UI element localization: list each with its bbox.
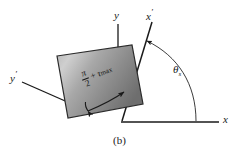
axis-label-x-text: x (223, 113, 228, 125)
angle-label-theta-s: θs (173, 64, 181, 78)
stress-element-square (57, 45, 143, 118)
figure-caption: (b) (0, 134, 239, 146)
axis-label-y-prime: y′ (10, 70, 17, 84)
prime-mark-x: ′ (151, 7, 153, 17)
axis-label-x: x (223, 114, 228, 125)
axis-label-y: y (114, 10, 119, 21)
axis-label-x-prime: x′ (146, 8, 153, 22)
prime-mark-y: ′ (15, 69, 17, 79)
theta-arc (147, 41, 196, 121)
figure-container: y x′ y′ x θs π 2 + τmax (b) (0, 0, 239, 160)
axis-label-y-text: y (114, 9, 119, 21)
theta-subscript: s (178, 70, 181, 78)
